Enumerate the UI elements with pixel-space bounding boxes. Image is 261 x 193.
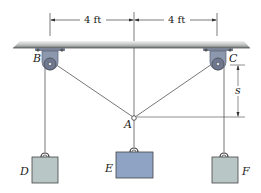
dimension-left-label: 4 ft	[84, 14, 101, 25]
dimension-s: s	[137, 65, 245, 117]
dimension-annotation: 4 ft 4 ft	[50, 12, 217, 118]
label-a: A	[123, 118, 132, 131]
block-e	[116, 148, 153, 178]
label-d: D	[19, 165, 29, 178]
block-d	[32, 153, 58, 183]
label-e: E	[104, 162, 113, 175]
pulley-diagram: 4 ft 4 ft s B	[0, 0, 261, 193]
ring-a	[132, 116, 137, 121]
block-f	[212, 153, 238, 183]
label-s: s	[235, 84, 241, 97]
label-c: C	[229, 52, 238, 65]
label-f: F	[241, 165, 250, 178]
dimension-right-label: 4 ft	[168, 14, 185, 25]
cables	[45, 64, 224, 152]
ceiling	[13, 41, 250, 48]
label-b: B	[32, 52, 41, 65]
